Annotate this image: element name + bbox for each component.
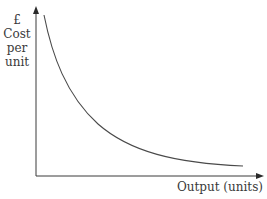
x-axis-arrow-icon bbox=[256, 173, 264, 179]
chart-plot-area bbox=[0, 0, 267, 199]
x-axis-label: Output (units) bbox=[177, 180, 263, 194]
y-axis-label: £ Cost per unit bbox=[0, 13, 34, 69]
cost-per-unit-chart: £ Cost per unit Output (units) bbox=[0, 0, 267, 199]
y-axis-label-line: Cost bbox=[0, 27, 34, 41]
y-axis-label-line: unit bbox=[0, 55, 34, 69]
cost-curve bbox=[44, 15, 243, 166]
y-axis-label-line: £ bbox=[0, 13, 34, 27]
y-axis-label-line: per bbox=[0, 41, 34, 55]
